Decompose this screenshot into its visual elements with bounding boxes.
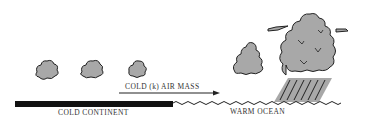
diagram-canvas — [0, 0, 379, 125]
air-mass-label: COLD (k) AIR MASS — [125, 82, 200, 91]
cold-continent-bar — [15, 101, 173, 107]
small-cloud-2 — [81, 60, 103, 77]
continent-label: COLD CONTINENT — [58, 108, 129, 117]
rain-shafts — [274, 78, 332, 102]
small-cloud-1 — [36, 60, 58, 79]
medium-cloud — [233, 43, 262, 75]
cumulonimbus-cloud — [268, 14, 348, 76]
air-mass-arrow — [119, 91, 220, 96]
ocean-label: WARM OCEAN — [230, 107, 285, 116]
small-cloud-3 — [129, 61, 146, 78]
